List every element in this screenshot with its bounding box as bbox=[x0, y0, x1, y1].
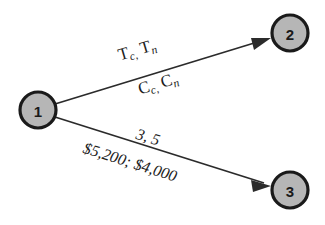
edge-1-2-subscript-c: c, bbox=[128, 49, 139, 64]
edge-1-2-subscript-cc: c, bbox=[149, 82, 160, 97]
network-graph-canvas: 1 2 3 bbox=[0, 0, 325, 225]
node-2-label: 2 bbox=[286, 26, 294, 43]
arrow-head-to-node-2 bbox=[251, 38, 271, 50]
network-diagram: 1 2 3 Tc, Tn Cc, Cn 3, 5 $5,200; $4,000 bbox=[0, 0, 325, 225]
node-3-label: 3 bbox=[286, 183, 294, 200]
node-1-label: 1 bbox=[34, 103, 42, 120]
